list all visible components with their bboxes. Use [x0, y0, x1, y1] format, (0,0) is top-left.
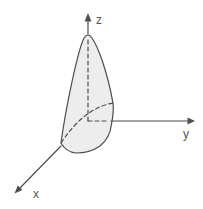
x-axis-label: x — [33, 187, 39, 201]
cone-diagram-figure: z y x — [0, 0, 203, 209]
y-axis-arrowhead — [188, 118, 196, 125]
y-axis-label: y — [183, 127, 189, 141]
x-axis-line — [19, 146, 61, 189]
z-axis-arrowhead — [85, 13, 92, 22]
cone-body — [61, 35, 113, 153]
cone-diagram-canvas: z y x — [0, 0, 203, 209]
z-axis-label: z — [96, 13, 102, 27]
